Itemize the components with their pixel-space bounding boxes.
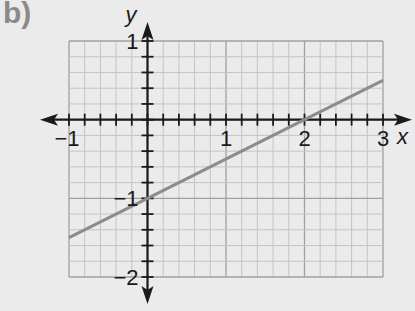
y-axis-label: y [124,2,139,27]
line-chart: −11231−1−2xy [0,0,415,311]
y-tick-label: 1 [126,29,138,54]
x-tick-label: 2 [298,126,310,151]
x-axis-label: x [396,124,409,149]
tick-labels: −11231−1−2xy [54,2,409,290]
x-tick-label: 1 [220,126,232,151]
y-tick-label: −2 [113,265,138,290]
x-tick-label: 3 [377,126,389,151]
y-tick-label: −1 [113,186,138,211]
x-tick-label: −1 [54,126,79,151]
